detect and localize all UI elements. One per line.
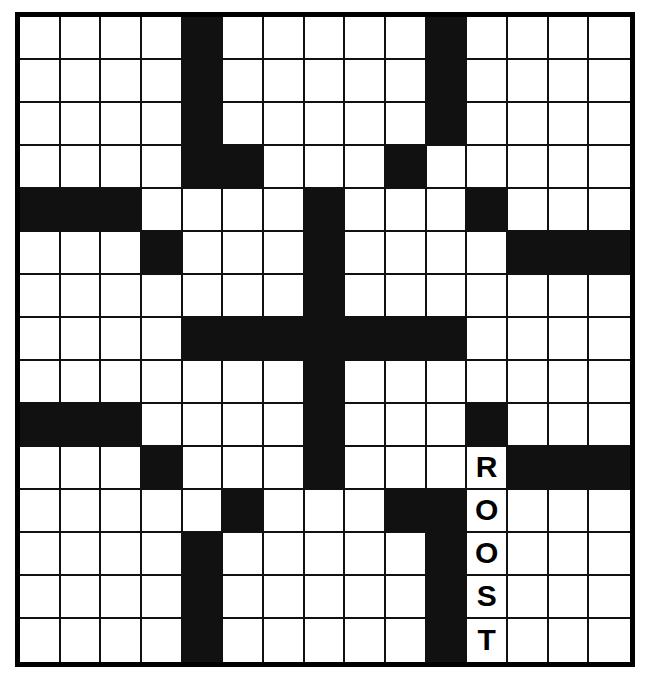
- grid-cell-open[interactable]: [467, 275, 508, 318]
- grid-cell-open[interactable]: [142, 533, 183, 576]
- grid-cell-open[interactable]: [142, 490, 183, 533]
- grid-cell-open[interactable]: [549, 103, 590, 146]
- crossword-grid[interactable]: ROOST: [20, 17, 630, 662]
- grid-cell-open[interactable]: [142, 189, 183, 232]
- grid-cell-open[interactable]: [101, 576, 142, 619]
- grid-cell-open[interactable]: [101, 232, 142, 275]
- grid-cell-open[interactable]: [589, 490, 630, 533]
- grid-cell-open[interactable]: [20, 447, 61, 490]
- grid-cell-open[interactable]: [223, 447, 264, 490]
- grid-cell-open[interactable]: [101, 103, 142, 146]
- grid-cell-open[interactable]: [264, 103, 305, 146]
- grid-cell-open[interactable]: [345, 533, 386, 576]
- grid-cell-filled[interactable]: S: [467, 576, 508, 619]
- grid-cell-filled[interactable]: O: [467, 490, 508, 533]
- grid-cell-open[interactable]: [549, 17, 590, 60]
- grid-cell-open[interactable]: [61, 275, 102, 318]
- grid-cell-open[interactable]: [467, 232, 508, 275]
- grid-cell-open[interactable]: [223, 404, 264, 447]
- grid-cell-open[interactable]: [386, 404, 427, 447]
- grid-cell-open[interactable]: [223, 275, 264, 318]
- grid-cell-open[interactable]: [101, 318, 142, 361]
- grid-cell-open[interactable]: [183, 232, 224, 275]
- grid-cell-open[interactable]: [467, 318, 508, 361]
- grid-cell-open[interactable]: [549, 490, 590, 533]
- grid-cell-open[interactable]: [223, 17, 264, 60]
- grid-cell-open[interactable]: [508, 60, 549, 103]
- grid-cell-open[interactable]: [549, 619, 590, 662]
- grid-cell-open[interactable]: [386, 447, 427, 490]
- grid-cell-open[interactable]: [183, 275, 224, 318]
- grid-cell-open[interactable]: [101, 275, 142, 318]
- grid-cell-open[interactable]: [305, 576, 346, 619]
- grid-cell-open[interactable]: [549, 576, 590, 619]
- grid-cell-open[interactable]: [61, 533, 102, 576]
- grid-cell-open[interactable]: [508, 576, 549, 619]
- grid-cell-open[interactable]: [345, 619, 386, 662]
- grid-cell-open[interactable]: [589, 146, 630, 189]
- grid-cell-open[interactable]: [549, 60, 590, 103]
- grid-cell-open[interactable]: [223, 189, 264, 232]
- grid-cell-open[interactable]: [345, 60, 386, 103]
- grid-cell-open[interactable]: [427, 275, 468, 318]
- grid-cell-filled[interactable]: T: [467, 619, 508, 662]
- grid-cell-open[interactable]: [142, 60, 183, 103]
- grid-cell-open[interactable]: [589, 404, 630, 447]
- grid-cell-open[interactable]: [508, 361, 549, 404]
- grid-cell-open[interactable]: [345, 490, 386, 533]
- grid-cell-open[interactable]: [549, 361, 590, 404]
- grid-cell-open[interactable]: [264, 447, 305, 490]
- grid-cell-open[interactable]: [61, 60, 102, 103]
- grid-cell-open[interactable]: [264, 232, 305, 275]
- grid-cell-open[interactable]: [61, 17, 102, 60]
- grid-cell-open[interactable]: [589, 103, 630, 146]
- grid-cell-open[interactable]: [386, 576, 427, 619]
- grid-cell-open[interactable]: [61, 232, 102, 275]
- grid-cell-open[interactable]: [101, 619, 142, 662]
- grid-cell-open[interactable]: [20, 361, 61, 404]
- grid-cell-filled[interactable]: O: [467, 533, 508, 576]
- grid-cell-open[interactable]: [549, 533, 590, 576]
- grid-cell-open[interactable]: [305, 60, 346, 103]
- grid-cell-open[interactable]: [20, 60, 61, 103]
- grid-cell-open[interactable]: [20, 619, 61, 662]
- grid-cell-open[interactable]: [467, 146, 508, 189]
- grid-cell-open[interactable]: [264, 361, 305, 404]
- grid-cell-open[interactable]: [101, 490, 142, 533]
- grid-cell-open[interactable]: [386, 60, 427, 103]
- grid-cell-open[interactable]: [61, 490, 102, 533]
- grid-cell-open[interactable]: [508, 318, 549, 361]
- grid-cell-open[interactable]: [386, 533, 427, 576]
- grid-cell-open[interactable]: [101, 447, 142, 490]
- grid-cell-open[interactable]: [589, 275, 630, 318]
- grid-cell-open[interactable]: [142, 619, 183, 662]
- grid-cell-open[interactable]: [589, 60, 630, 103]
- grid-cell-open[interactable]: [61, 361, 102, 404]
- grid-cell-open[interactable]: [101, 146, 142, 189]
- grid-cell-open[interactable]: [20, 232, 61, 275]
- grid-cell-open[interactable]: [305, 103, 346, 146]
- grid-cell-open[interactable]: [467, 17, 508, 60]
- grid-cell-open[interactable]: [345, 404, 386, 447]
- grid-cell-open[interactable]: [223, 60, 264, 103]
- grid-cell-open[interactable]: [345, 361, 386, 404]
- grid-cell-open[interactable]: [508, 404, 549, 447]
- grid-cell-open[interactable]: [345, 576, 386, 619]
- grid-cell-open[interactable]: [183, 404, 224, 447]
- grid-cell-open[interactable]: [61, 103, 102, 146]
- grid-cell-open[interactable]: [223, 361, 264, 404]
- grid-cell-open[interactable]: [223, 619, 264, 662]
- grid-cell-open[interactable]: [508, 275, 549, 318]
- grid-cell-open[interactable]: [467, 60, 508, 103]
- grid-cell-open[interactable]: [345, 103, 386, 146]
- grid-cell-open[interactable]: [142, 17, 183, 60]
- grid-cell-open[interactable]: [142, 146, 183, 189]
- grid-cell-open[interactable]: [264, 60, 305, 103]
- grid-cell-open[interactable]: [264, 619, 305, 662]
- grid-cell-open[interactable]: [264, 576, 305, 619]
- grid-cell-open[interactable]: [264, 490, 305, 533]
- grid-cell-open[interactable]: [467, 103, 508, 146]
- grid-cell-open[interactable]: [427, 232, 468, 275]
- grid-cell-open[interactable]: [345, 447, 386, 490]
- grid-cell-open[interactable]: [549, 275, 590, 318]
